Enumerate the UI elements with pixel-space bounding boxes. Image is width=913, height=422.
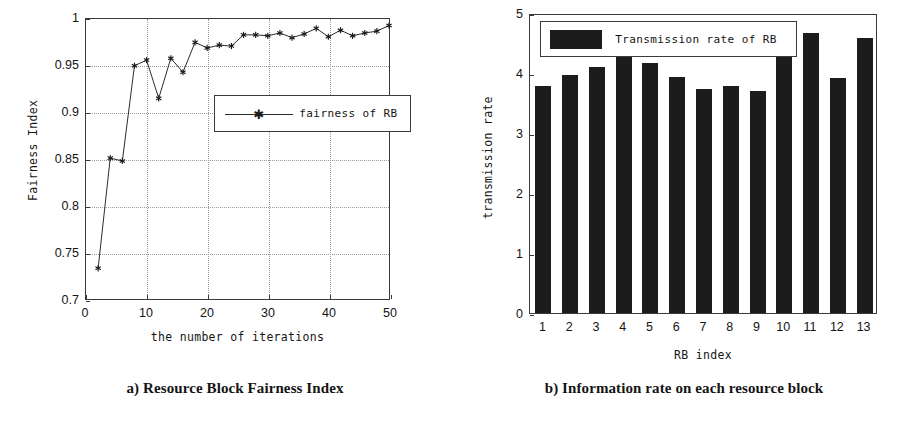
bar (535, 86, 551, 313)
line-plot-area: ✱ fairness of RB (85, 18, 390, 300)
y-tick-label: 2 (493, 187, 523, 201)
x-tick-label: 50 (383, 306, 397, 320)
y-tick-mark (530, 255, 534, 256)
bar (696, 89, 712, 313)
bar (589, 67, 605, 313)
data-point-marker (338, 27, 343, 33)
bar (616, 48, 632, 313)
data-point-marker (301, 31, 306, 37)
y-tick-label: 0.95 (33, 58, 79, 72)
data-point-marker (314, 25, 319, 31)
x-tick-label: 4 (619, 320, 626, 334)
x-tick-mark (391, 295, 392, 299)
x-tick-label: 8 (726, 320, 733, 334)
caption-panel-a: a) Resource Block Fairness Index (0, 380, 470, 397)
y-tick-mark (530, 195, 534, 196)
bar-series (530, 15, 876, 313)
y-tick-label: 0.75 (33, 246, 79, 260)
data-point-marker (144, 57, 149, 63)
x-tick-label: 10 (139, 306, 153, 320)
figure-container: Fairness Index ✱ fairness of RB 0.70.750… (0, 0, 913, 422)
y-tick-label: 1 (493, 247, 523, 261)
bar (642, 63, 658, 313)
x-axis-title-iterations: the number of iterations (85, 330, 390, 344)
x-tick-label: 30 (261, 306, 275, 320)
x-tick-label: 9 (753, 320, 760, 334)
legend-bar-swatch-icon (550, 30, 602, 49)
star-marker-icon: ✱ (254, 107, 265, 120)
y-tick-mark (530, 135, 534, 136)
panel-b-transmission-rate: transmission rate Transmission rate of R… (455, 0, 913, 422)
data-point-marker (132, 63, 137, 69)
x-tick-label: 20 (200, 306, 214, 320)
bar (562, 75, 578, 313)
data-point-marker (192, 39, 197, 45)
data-point-marker (386, 22, 391, 28)
y-tick-label: 1 (33, 11, 79, 25)
panel-a-fairness-index: Fairness Index ✱ fairness of RB 0.70.750… (0, 0, 470, 422)
y-tick-mark (530, 15, 534, 16)
x-tick-label: 11 (804, 320, 817, 334)
fairness-line-series (86, 19, 389, 299)
legend-panel-a[interactable]: ✱ fairness of RB (214, 95, 411, 132)
x-tick-label: 12 (830, 320, 844, 334)
legend-panel-b[interactable]: Transmission rate of RB (540, 21, 797, 57)
y-tick-label: 0.9 (33, 105, 79, 119)
bar (669, 77, 685, 313)
fairness-line-path (98, 26, 389, 269)
x-tick-label: 1 (539, 320, 546, 334)
x-tick-label: 6 (673, 320, 680, 334)
y-tick-label: 0 (493, 307, 523, 321)
data-point-marker (95, 265, 100, 271)
x-tick-label: 5 (646, 320, 653, 334)
bar-plot-area: Transmission rate of RB (529, 14, 877, 314)
data-point-marker (326, 34, 331, 40)
y-tick-mark (530, 315, 534, 316)
x-tick-label: 0 (82, 306, 89, 320)
x-axis-title-rb-index: RB index (529, 348, 877, 362)
legend-label-transmission: Transmission rate of RB (602, 33, 796, 46)
bar (857, 38, 873, 313)
bar (723, 86, 739, 313)
x-tick-label: 40 (322, 306, 336, 320)
y-tick-label: 0.8 (33, 199, 79, 213)
y-tick-mark (530, 75, 534, 76)
y-tick-label: 0.85 (33, 152, 79, 166)
legend-line-sample-icon: ✱ (223, 107, 295, 121)
y-tick-label: 4 (493, 67, 523, 81)
y-tick-mark (86, 301, 90, 302)
y-tick-label: 0.7 (33, 293, 79, 307)
x-tick-label: 3 (592, 320, 599, 334)
x-tick-label: 2 (566, 320, 573, 334)
bar (776, 57, 792, 313)
x-tick-label: 7 (700, 320, 707, 334)
bar (803, 33, 819, 313)
caption-panel-b: b) Information rate on each resource blo… (455, 380, 913, 397)
x-tick-label: 13 (857, 320, 871, 334)
y-tick-label: 5 (493, 7, 523, 21)
y-tick-label: 3 (493, 127, 523, 141)
data-point-marker (289, 35, 294, 41)
legend-label-fairness: fairness of RB (295, 107, 410, 120)
x-tick-label: 10 (776, 320, 790, 334)
bar (750, 91, 766, 313)
bar (830, 78, 846, 313)
data-point-marker (156, 95, 161, 101)
